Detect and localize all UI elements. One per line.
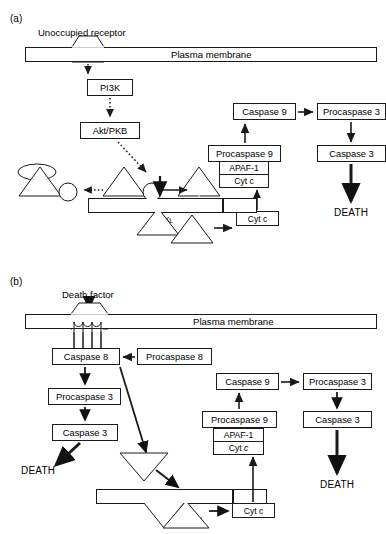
connector-layer — [0, 0, 386, 534]
figure-canvas: (a) Unoccupied receptor Plasma membrane … — [0, 0, 386, 534]
